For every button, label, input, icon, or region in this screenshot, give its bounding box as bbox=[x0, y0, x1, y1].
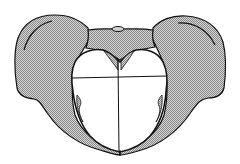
pelvis-diagram bbox=[0, 0, 240, 164]
sacral-promontory bbox=[112, 27, 124, 32]
pelvis-svg bbox=[0, 0, 240, 164]
